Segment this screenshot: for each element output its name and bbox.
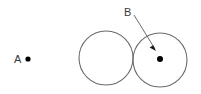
point-a-label: A xyxy=(14,53,22,65)
point-b-label: B xyxy=(124,6,131,18)
figure-canvas: A B xyxy=(0,0,201,94)
b-leader-arrow-line xyxy=(134,15,155,49)
point-b-dot xyxy=(157,56,163,62)
geometry-diagram: A B xyxy=(0,0,201,94)
b-leader-arrow-head xyxy=(150,45,156,51)
left-circle xyxy=(79,31,133,85)
point-a-dot xyxy=(25,56,30,61)
